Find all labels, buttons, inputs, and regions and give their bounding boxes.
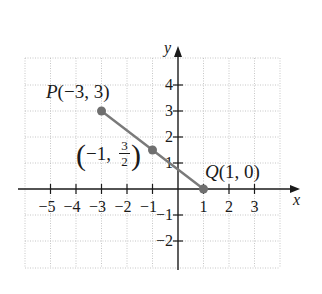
x-axis (18, 185, 300, 193)
point-p-coords: (−3, 3) (58, 81, 110, 103)
x-tick-label: 3 (251, 198, 259, 215)
x-tick-label: −5 (38, 198, 55, 215)
y-tick-label: 4 (165, 76, 173, 93)
y-axis (174, 46, 182, 270)
fraction-numerator: 3 (121, 138, 128, 153)
x-axis-label: x (292, 191, 300, 208)
x-tick-label: −1 (140, 198, 157, 215)
point-p-name: P (45, 81, 58, 102)
point-q-name: Q (205, 161, 219, 182)
y-tick-label: 3 (165, 102, 173, 119)
x-tick-label: −2 (114, 198, 131, 215)
y-tick-label: −1 (156, 206, 173, 223)
y-axis-label: y (162, 39, 172, 57)
y-axis-arrow-icon (174, 46, 182, 57)
point-q-label: Q(1, 0) (205, 161, 260, 183)
midpoint-label: ( −1, 3 2 ) (76, 138, 141, 172)
y-tick-label: −2 (156, 232, 173, 249)
left-paren: ( (76, 138, 86, 172)
midpoint (148, 146, 157, 155)
midpoint-x-coord: −1, (86, 143, 111, 164)
x-tick-label: 1 (200, 198, 208, 215)
svg-text:P(−3, 3): P(−3, 3) (45, 81, 109, 103)
x-tick-label: −4 (63, 198, 80, 215)
point-p (97, 107, 106, 116)
point-q-coords: (1, 0) (219, 161, 260, 183)
point-q (199, 185, 208, 194)
x-tick-label: 2 (225, 198, 233, 215)
x-tick-label: −3 (89, 198, 106, 215)
fraction-denominator: 2 (121, 154, 128, 169)
right-paren: ) (131, 138, 141, 172)
svg-text:Q(1, 0): Q(1, 0) (205, 161, 260, 183)
point-p-label: P(−3, 3) (45, 81, 109, 103)
x-tick-labels: −5 −4 −3 −2 −1 1 2 3 (38, 198, 258, 215)
y-tick-label: 2 (165, 128, 173, 145)
coordinate-plane-figure: −5 −4 −3 −2 −1 1 2 3 4 3 2 1 −1 −2 x y P… (0, 0, 322, 294)
